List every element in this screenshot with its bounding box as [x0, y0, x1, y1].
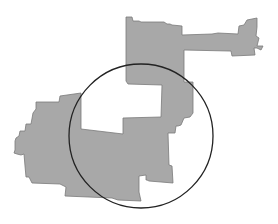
map-canvas: [0, 0, 278, 224]
map-svg: [0, 0, 278, 224]
